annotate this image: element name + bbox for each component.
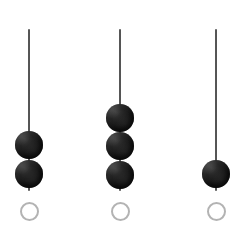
bead-counter-canvas: Bead Counter [0, 0, 249, 229]
bead-column[interactable] [0, 0, 249, 229]
bead[interactable] [202, 160, 230, 188]
empty-slot-marker[interactable] [207, 202, 226, 221]
